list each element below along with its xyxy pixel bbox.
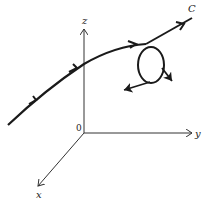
curve-tail-segment (146, 18, 192, 44)
curve-c: C (8, 3, 196, 125)
origin-label: 0 (76, 123, 82, 133)
curve-path (8, 44, 146, 125)
loop-vector-right (162, 68, 172, 81)
y-axis-label: y (194, 128, 201, 139)
z-axis-label: z (81, 15, 88, 26)
axes: z y x 0 (36, 15, 201, 200)
x-axis-label: x (36, 189, 42, 200)
curve-label: C (188, 3, 196, 14)
loop-circle (138, 47, 164, 83)
space-curve-diagram: z y x 0 C (0, 0, 211, 211)
direction-arrow-icon (29, 96, 36, 104)
loop-vector-left (124, 82, 150, 90)
x-axis (38, 133, 84, 186)
loop (124, 47, 172, 90)
